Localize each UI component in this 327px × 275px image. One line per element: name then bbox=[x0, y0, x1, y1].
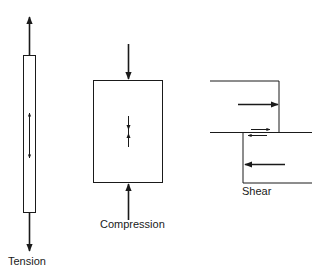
shear-label: Shear bbox=[242, 185, 271, 197]
shear-diagram bbox=[210, 81, 312, 183]
tension-diagram bbox=[24, 17, 36, 251]
shear-lower-block bbox=[243, 132, 312, 183]
compression-diagram bbox=[94, 44, 163, 220]
stress-types-diagram bbox=[0, 0, 327, 275]
tension-label: Tension bbox=[8, 255, 46, 267]
compression-internal-arrow-up-icon bbox=[127, 133, 131, 138]
shear-upper-block bbox=[210, 81, 279, 132]
compression-label: Compression bbox=[100, 218, 165, 230]
compression-internal-arrow-down-icon bbox=[127, 125, 131, 130]
